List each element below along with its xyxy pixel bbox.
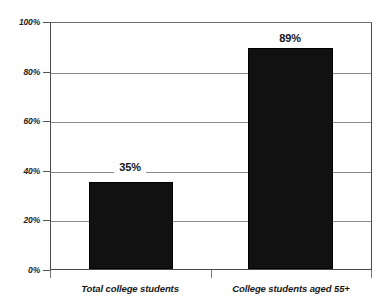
plot-area: [50, 22, 372, 270]
ytick-mark-60: [43, 121, 50, 122]
ytick-mark-80: [43, 72, 50, 73]
value-label-college-students-aged-55-plus: 89%: [274, 32, 306, 44]
bar-college-students-aged-55-plus: [248, 48, 333, 269]
ytick-label-100: 100%: [19, 17, 40, 27]
ytick-label-0: 0%: [28, 265, 40, 275]
xtick-label-total-college-students: Total college students: [81, 283, 179, 294]
ytick-mark-20: [43, 220, 50, 221]
ytick-mark-40: [43, 171, 50, 172]
bar-total-college-students: [89, 182, 173, 269]
ytick-label-80: 80%: [24, 67, 40, 77]
xtick-label-college-students-aged-55-plus: College students aged 55+: [232, 283, 350, 294]
ytick-label-20: 20%: [24, 215, 40, 225]
ytick-label-60: 60%: [24, 116, 40, 126]
xtick-separator-right: [371, 270, 372, 278]
xtick-separator-middle: [211, 270, 212, 278]
bar-chart: 100% 80% 60% 40% 20% 0% 35% 89% Total co…: [0, 0, 392, 305]
value-label-total-college-students: 35%: [114, 161, 146, 173]
xtick-separator-left: [50, 270, 51, 278]
ytick-label-40: 40%: [24, 166, 40, 176]
ytick-mark-100: [43, 22, 50, 23]
ytick-mark-0: [43, 270, 50, 271]
